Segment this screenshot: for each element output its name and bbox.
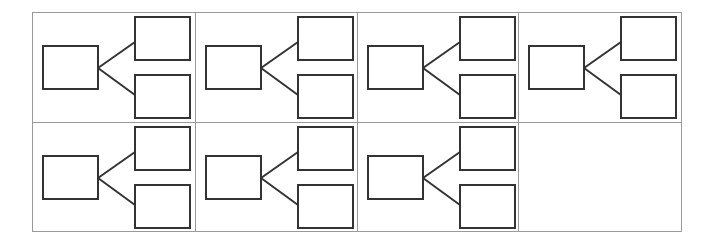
tree-diagram xyxy=(33,13,197,124)
connector-top xyxy=(261,152,298,178)
cell-7 xyxy=(357,122,519,232)
child-box-bottom xyxy=(135,75,190,118)
parent-box xyxy=(206,156,261,199)
parent-box xyxy=(43,156,98,199)
child-box-top xyxy=(460,17,515,60)
child-box-top xyxy=(298,127,353,170)
child-box-bottom xyxy=(621,75,676,118)
tree-diagram xyxy=(358,123,520,233)
cell-4 xyxy=(518,12,682,123)
child-box-bottom xyxy=(298,75,353,118)
parent-box xyxy=(529,46,584,89)
cell-5 xyxy=(32,122,196,232)
tree-diagram xyxy=(196,13,359,124)
child-box-top xyxy=(621,17,676,60)
child-box-top xyxy=(135,17,190,60)
connector-top xyxy=(584,42,621,68)
child-box-top xyxy=(298,17,353,60)
connector-top xyxy=(98,152,135,178)
cell-8 xyxy=(518,122,682,232)
cell-3 xyxy=(357,12,519,123)
child-box-bottom xyxy=(135,185,190,228)
diagram-grid xyxy=(32,12,681,231)
cell-1 xyxy=(32,12,196,123)
tree-diagram xyxy=(196,123,359,233)
connector-bottom xyxy=(98,68,135,95)
connector-top xyxy=(423,42,460,68)
parent-box xyxy=(43,46,98,89)
parent-box xyxy=(368,46,423,89)
child-box-bottom xyxy=(298,185,353,228)
parent-box xyxy=(368,156,423,199)
connector-bottom xyxy=(584,68,621,95)
child-box-bottom xyxy=(460,185,515,228)
tree-diagram xyxy=(519,13,683,124)
parent-box xyxy=(206,46,261,89)
connector-top xyxy=(261,42,298,68)
connector-bottom xyxy=(423,178,460,205)
connector-top xyxy=(98,42,135,68)
connector-bottom xyxy=(423,68,460,95)
connector-bottom xyxy=(261,68,298,95)
connector-bottom xyxy=(98,178,135,205)
child-box-top xyxy=(135,127,190,170)
tree-diagram xyxy=(33,123,197,233)
child-box-top xyxy=(460,127,515,170)
cell-6 xyxy=(195,122,358,232)
child-box-bottom xyxy=(460,75,515,118)
connector-bottom xyxy=(261,178,298,205)
tree-diagram xyxy=(358,13,520,124)
cell-2 xyxy=(195,12,358,123)
connector-top xyxy=(423,152,460,178)
